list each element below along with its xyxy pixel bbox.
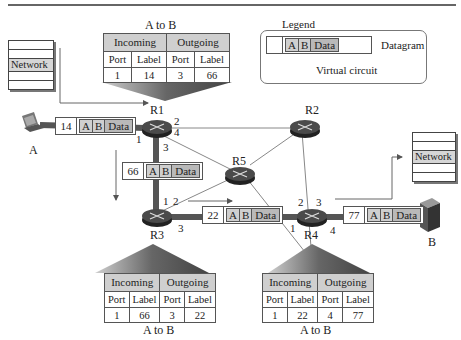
router-r2-icon <box>290 120 320 138</box>
laptop-a-icon <box>22 112 44 132</box>
packet-77: 77 ABData <box>343 206 424 224</box>
router-label-r3: R3 <box>150 229 164 241</box>
router-label-r2: R2 <box>305 104 319 116</box>
legend-title: Legend <box>282 19 315 30</box>
network-stack-b: Network <box>412 132 456 182</box>
network-layer-label: Network <box>9 59 53 72</box>
port-r4-2: 2 <box>298 197 304 208</box>
network-stack-a: Network <box>8 40 54 90</box>
funnel-r3 <box>95 244 209 273</box>
legend-datagram-packet: A B Data <box>266 36 372 54</box>
table-r3-caption: A to B <box>143 324 174 336</box>
port-r4-3: 3 <box>316 197 322 208</box>
table-r4-caption: A to B <box>300 324 331 336</box>
packet-22: 22 ABData <box>202 206 283 224</box>
link-r2-r5 <box>250 130 300 165</box>
table-r4: IncomingOutgoing PortLabelPortLabel 1224… <box>262 273 374 323</box>
router-r5-icon <box>225 167 255 185</box>
packet-14: 14 ABData <box>55 117 136 135</box>
funnel-r1 <box>101 82 232 101</box>
port-r1-1: 1 <box>136 134 142 145</box>
port-r3-3: 3 <box>178 223 184 234</box>
funnel-r4 <box>268 244 370 273</box>
port-r1-4: 4 <box>174 127 180 138</box>
arrow-network-b <box>335 157 402 199</box>
router-label-r4: R4 <box>304 229 318 241</box>
router-r4-icon <box>297 209 327 227</box>
table-r1: IncomingOutgoing PortLabelPortLabel 1143… <box>103 33 230 83</box>
port-r4-1: 1 <box>290 223 296 234</box>
network-layer-label: Network <box>413 151 455 164</box>
host-label-b: B <box>428 236 436 248</box>
router-label-r5: R5 <box>232 155 246 167</box>
legend-datagram-label: Datagram <box>381 40 424 51</box>
packet-66: 66 ABData <box>122 162 203 180</box>
router-r1-icon <box>142 120 172 138</box>
legend-box: A B Data Datagram Virtual circuit <box>260 30 427 84</box>
port-r3-2: 2 <box>173 196 179 207</box>
table-r1-caption: A to B <box>145 19 176 31</box>
port-r1-3: 3 <box>163 142 169 153</box>
router-r3-icon <box>142 209 172 227</box>
port-r4-4: 4 <box>330 225 336 236</box>
router-label-r1: R1 <box>150 104 164 116</box>
port-r3-1: 1 <box>163 196 169 207</box>
host-label-a: A <box>29 144 38 156</box>
table-r3: IncomingOutgoing PortLabelPortLabel 1663… <box>104 273 216 323</box>
legend-vc-label: Virtual circuit <box>316 65 377 76</box>
